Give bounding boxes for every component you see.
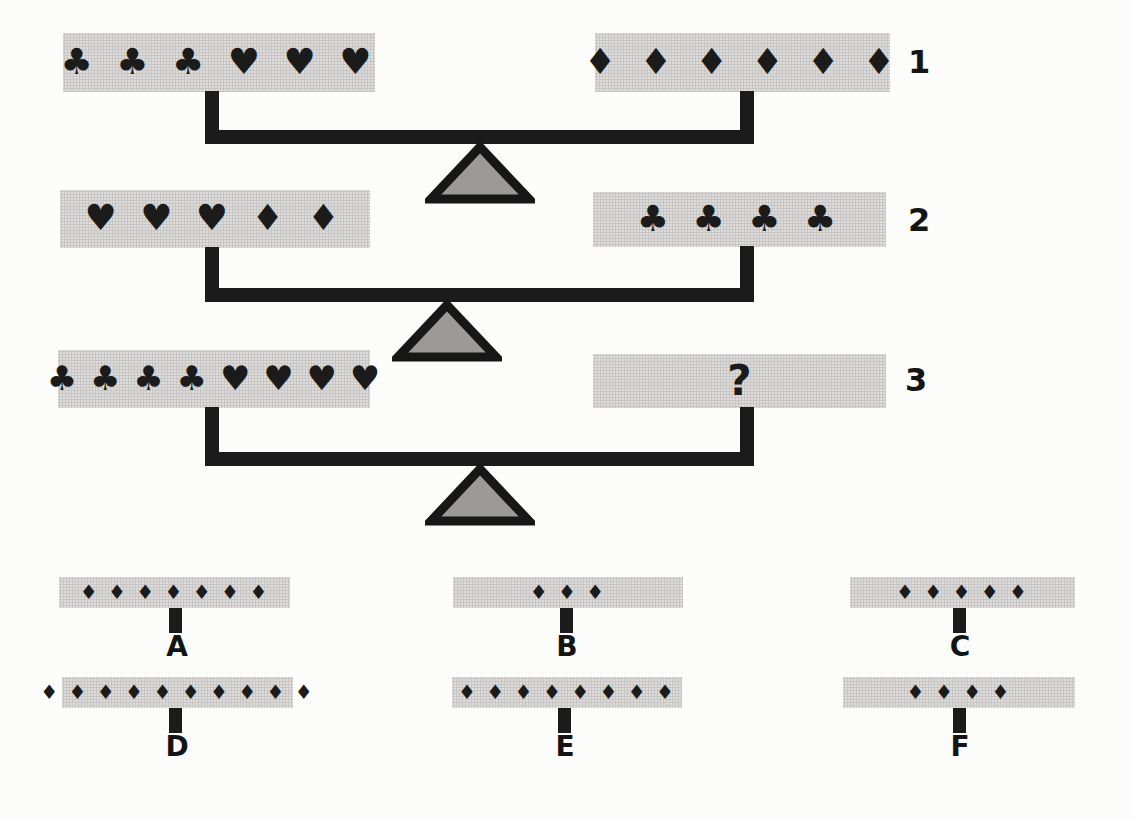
scale-1-right-pan: ♦ ♦ ♦ ♦ ♦ ♦ [595,33,890,92]
scale-2-left-suits: ♥ ♥ ♥ ♦ ♦ [84,200,345,236]
option-d-letter: D [160,733,194,761]
option-a-pan: ♦ ♦ ♦ ♦ ♦ ♦ ♦ [59,577,290,608]
option-f-pan: ♦ ♦ ♦ ♦ [843,677,1075,708]
scale-2-fulcrum-icon [392,299,502,366]
puzzle-page: ♣ ♣ ♣ ♥ ♥ ♥ ♦ ♦ ♦ ♦ ♦ ♦ 1 ♥ ♥ ♥ ♦ ♦ ♣ ♣ … [0,0,1133,819]
scale-1-left-pan: ♣ ♣ ♣ ♥ ♥ ♥ [63,33,375,92]
option-f-suits: ♦ ♦ ♦ ♦ [907,682,1012,702]
scale-2-right-pan: ♣ ♣ ♣ ♣ [593,192,886,247]
scale-2-label: 2 [908,204,930,236]
option-a-letter: A [160,633,194,661]
option-d-suits: ♦ ♦ ♦ ♦ ♦ ♦ ♦ ♦ ♦ ♦ [40,682,315,702]
option-b-letter: B [550,633,584,661]
scale-3-fulcrum-icon [425,463,535,530]
scale-2-right-suits: ♣ ♣ ♣ ♣ [637,201,842,237]
question-mark: ? [727,360,751,402]
scale-3-right-pan: ? [593,354,886,408]
scale-1-fulcrum-icon [425,141,535,208]
option-a-suits: ♦ ♦ ♦ ♦ ♦ ♦ ♦ [80,582,270,602]
option-c-suits: ♦ ♦ ♦ ♦ ♦ [896,582,1029,602]
scale-2-left-pan: ♥ ♥ ♥ ♦ ♦ [60,190,370,248]
scale-3-left-suits: ♣ ♣ ♣ ♣ ♥ ♥ ♥ ♥ [47,361,382,395]
option-e-suits: ♦ ♦ ♦ ♦ ♦ ♦ ♦ ♦ [458,682,676,702]
option-b-suits: ♦ ♦ ♦ [530,582,607,602]
scale-1-label: 1 [908,46,930,78]
scale-3-left-pan: ♣ ♣ ♣ ♣ ♥ ♥ ♥ ♥ [58,350,370,408]
option-f-letter: F [943,733,977,761]
option-c-pan: ♦ ♦ ♦ ♦ ♦ [850,577,1075,608]
option-e-letter: E [548,733,582,761]
option-d-pan: ♦ ♦ ♦ ♦ ♦ ♦ ♦ ♦ ♦ ♦ [62,677,293,708]
option-e-pan: ♦ ♦ ♦ ♦ ♦ ♦ ♦ ♦ [452,677,682,708]
option-b-pan: ♦ ♦ ♦ [453,577,683,608]
scale-1-right-suits: ♦ ♦ ♦ ♦ ♦ ♦ [584,44,901,80]
scale-1-left-suits: ♣ ♣ ♣ ♥ ♥ ♥ [61,44,378,80]
option-c-letter: C [943,633,977,661]
scale-3-label: 3 [905,364,927,396]
